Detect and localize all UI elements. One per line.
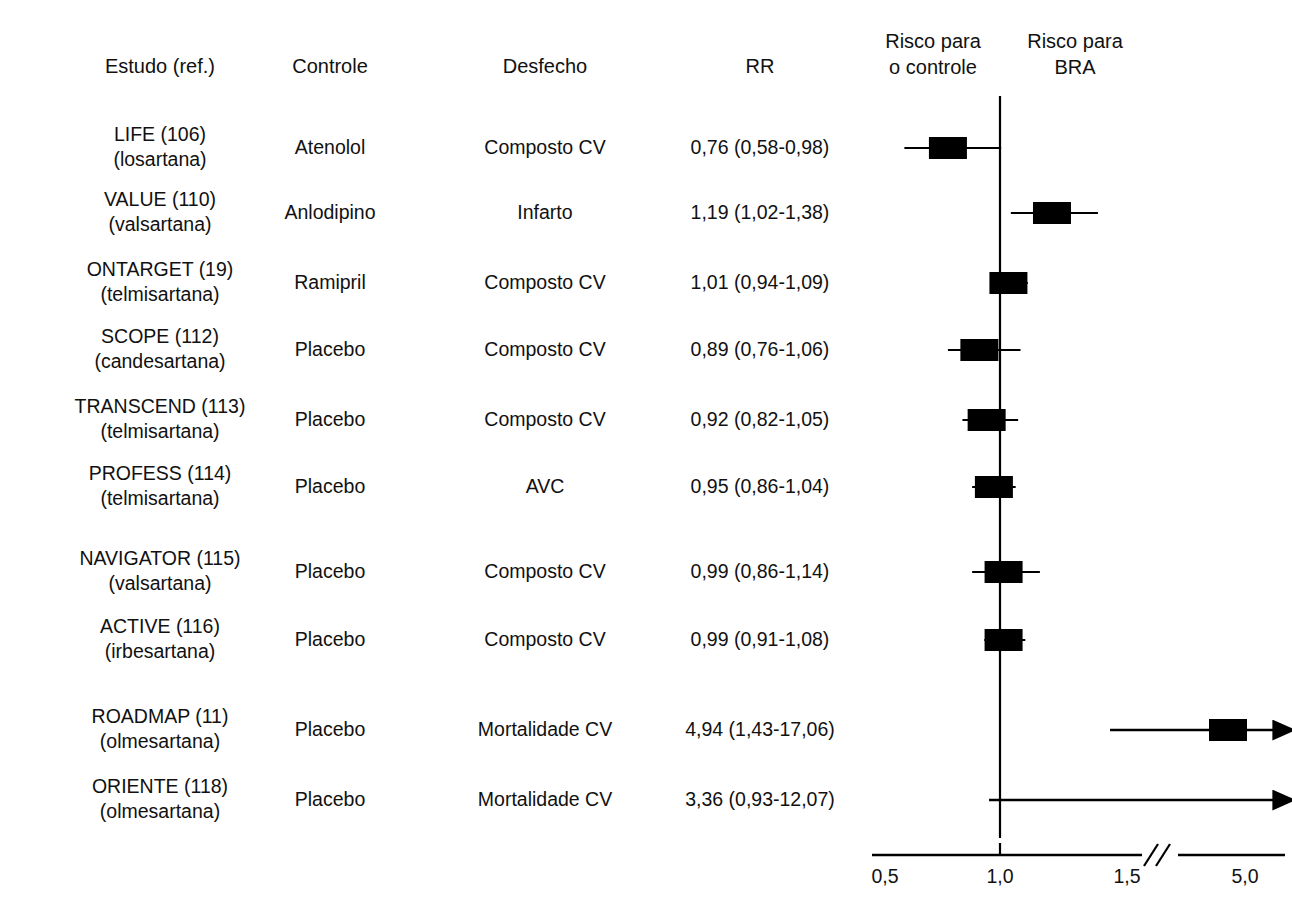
forest-row [1110, 719, 1275, 741]
axis-break-slash-2 [1156, 844, 1170, 866]
forest-plot-figure: Estudo (ref.) Controle Desfecho RR Risco… [0, 0, 1292, 915]
forest-row [948, 339, 1021, 361]
point-estimate-marker [1033, 202, 1071, 224]
axis-break-slash-1 [1144, 844, 1158, 866]
forest-row [962, 409, 1018, 431]
point-estimate-marker [1209, 719, 1247, 741]
axis-tick-label: 5,0 [1205, 865, 1285, 888]
point-estimate-marker [975, 476, 1013, 498]
forest-plot-canvas [0, 0, 1292, 915]
forest-row [989, 272, 1027, 294]
forest-row [972, 561, 1040, 583]
forest-plot-svg [0, 0, 1292, 915]
axis-tick-label: 1,5 [1087, 865, 1167, 888]
axis-tick-label: 0,5 [845, 865, 925, 888]
forest-row [984, 629, 1025, 651]
point-estimate-marker [960, 339, 998, 361]
point-estimate-marker [929, 137, 967, 159]
forest-row [972, 476, 1016, 498]
point-estimate-marker [985, 629, 1023, 651]
point-estimate-marker [985, 561, 1023, 583]
point-estimate-marker [989, 272, 1027, 294]
axis-tick-label: 1,0 [960, 865, 1040, 888]
point-estimate-marker [968, 409, 1006, 431]
forest-row [1011, 202, 1098, 224]
forest-row [904, 137, 1001, 159]
